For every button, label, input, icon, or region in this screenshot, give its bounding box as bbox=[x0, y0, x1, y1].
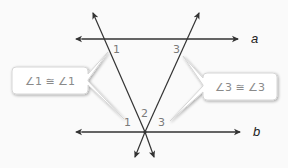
transversal-1 bbox=[93, 13, 154, 157]
angle-label-1-bottom: 1 bbox=[124, 116, 131, 129]
line-a-label: a bbox=[251, 31, 258, 46]
callout-left-text: ∠1 ≅ ∠1 bbox=[25, 75, 75, 88]
callout-right-text: ∠3 ≅ ∠3 bbox=[215, 81, 265, 94]
line-b-label: b bbox=[253, 124, 260, 139]
geometry-diagram: ∠1 ≅ ∠1 ∠3 ≅ ∠3 a b 1 3 1 2 3 bbox=[0, 0, 288, 168]
angle-label-1-top: 1 bbox=[113, 43, 120, 56]
angle-label-3-bottom: 3 bbox=[158, 116, 165, 129]
angle-label-2: 2 bbox=[141, 107, 148, 120]
angle-label-3-top: 3 bbox=[173, 43, 180, 56]
intersection-point bbox=[143, 130, 146, 133]
transversal-2 bbox=[135, 13, 199, 157]
